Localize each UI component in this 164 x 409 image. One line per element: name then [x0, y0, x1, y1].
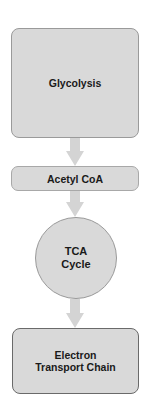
- electron-transport-chain-label: Electron Transport Chain: [35, 349, 116, 373]
- arrow-down-icon: [66, 138, 84, 166]
- glycolysis-label: Glycolysis: [49, 77, 102, 89]
- tca-cycle-node: TCA Cycle: [35, 217, 117, 299]
- acetyl-coa-node: Acetyl CoA: [11, 166, 139, 191]
- arrow-down-icon: [66, 299, 84, 328]
- acetyl-coa-label: Acetyl CoA: [47, 173, 103, 185]
- electron-transport-chain-node: Electron Transport Chain: [12, 328, 139, 394]
- arrow-down-icon: [66, 191, 84, 217]
- tca-cycle-label: TCA Cycle: [61, 245, 90, 271]
- glycolysis-node: Glycolysis: [11, 28, 139, 138]
